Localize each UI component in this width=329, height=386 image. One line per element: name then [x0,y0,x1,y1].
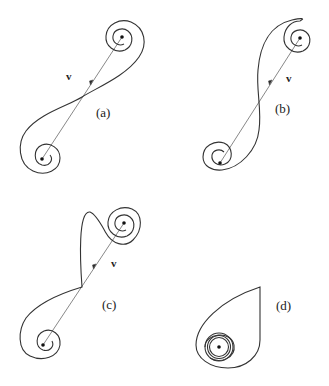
center-dot [217,345,221,349]
panel-a: v (a) [20,21,144,173]
center-dot [122,221,126,225]
center-dot [218,161,222,165]
center-dot [40,157,44,161]
center-dot [298,36,302,40]
connecting-line-c [43,223,124,345]
figure-canvas: v (a) v (b) v (c) (d) [0,0,329,386]
center-dot [41,343,45,347]
center-dot [120,35,124,39]
panel-b: v (b) [203,19,310,171]
panel-label-d: (d) [276,298,291,313]
panel-label-c: (c) [102,297,116,312]
spiral-curve-a [20,21,144,173]
panel-c: v (c) [20,208,140,359]
vector-label-c: v [111,257,117,269]
panel-label-b: (b) [275,101,290,116]
panel-d: (d) [196,287,291,368]
vector-label-a: v [66,70,72,82]
spiral-curve-b [203,19,310,171]
panel-label-a: (a) [96,105,110,120]
teardrop-curve-d [196,287,260,368]
cusp-curve-c [20,208,140,359]
vector-label-b: v [286,72,292,84]
connecting-line-a [42,37,122,159]
